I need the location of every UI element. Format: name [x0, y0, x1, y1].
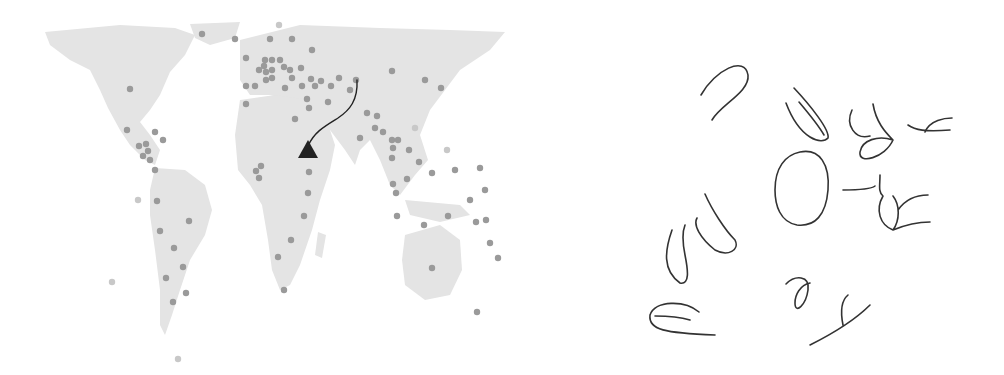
site-dot: [140, 153, 146, 159]
site-dot: [328, 83, 334, 89]
site-dot: [325, 99, 331, 105]
site-dot: [380, 129, 386, 135]
site-dot: [258, 163, 264, 169]
site-dot: [163, 275, 169, 281]
site-dot: [357, 135, 363, 141]
glyph-small-arc: [908, 118, 952, 132]
site-dot: [147, 157, 153, 163]
site-dot: [390, 181, 396, 187]
site-dot: [145, 148, 151, 154]
site-dot: [416, 159, 422, 165]
africa: [235, 95, 335, 290]
site-dot: [292, 116, 298, 122]
site-dot: [305, 190, 311, 196]
site-dot: [364, 110, 370, 116]
site-dot: [445, 213, 451, 219]
site-dot: [308, 76, 314, 82]
glyph-hook: [701, 66, 748, 120]
site-dot: [171, 245, 177, 251]
site-dot: [186, 218, 192, 224]
site-dot: [306, 169, 312, 175]
site-dot: [477, 165, 483, 171]
site-dot: [175, 356, 181, 362]
site-dot: [277, 57, 283, 63]
site-dot: [318, 78, 324, 84]
site-dot: [183, 290, 189, 296]
site-dot: [312, 83, 318, 89]
site-dot: [395, 137, 401, 143]
southeast-asia-islands: [405, 200, 470, 222]
glyph-e: [650, 303, 715, 335]
site-dot: [487, 240, 493, 246]
site-dot: [438, 85, 444, 91]
site-dot: [232, 36, 238, 42]
site-dot: [412, 125, 418, 131]
glyph-double-u: [667, 194, 737, 283]
site-dot: [389, 155, 395, 161]
site-dot: [336, 75, 342, 81]
site-dot: [152, 129, 158, 135]
site-dot: [473, 219, 479, 225]
site-dot: [406, 147, 412, 153]
site-dot: [301, 213, 307, 219]
glyph-y-loop: [850, 104, 893, 159]
site-dot: [170, 299, 176, 305]
site-dot: [256, 67, 262, 73]
site-dot: [256, 175, 262, 181]
glyph-shapes: [650, 66, 952, 345]
site-dot: [267, 36, 273, 42]
site-dot: [243, 83, 249, 89]
glyph-oval: [775, 151, 828, 225]
site-dot: [199, 31, 205, 37]
australia: [402, 225, 462, 300]
site-dot: [253, 168, 259, 174]
site-dot: [180, 264, 186, 270]
greenland: [190, 22, 240, 45]
site-dot: [304, 96, 310, 102]
site-dot: [109, 279, 115, 285]
glyph-s-curve: [786, 278, 810, 308]
site-dot: [482, 187, 488, 193]
site-dot: [135, 197, 141, 203]
site-dot: [429, 265, 435, 271]
site-dot: [483, 217, 489, 223]
site-dot: [262, 57, 268, 63]
site-dot: [136, 143, 142, 149]
site-dot: [261, 63, 267, 69]
site-dot: [474, 309, 480, 315]
site-dot: [160, 137, 166, 143]
south-america: [150, 168, 212, 335]
site-dot: [282, 85, 288, 91]
site-dot: [347, 87, 353, 93]
site-dot: [309, 47, 315, 53]
site-dot: [269, 57, 275, 63]
site-dot: [404, 176, 410, 182]
site-dot: [372, 125, 378, 131]
site-dot: [289, 36, 295, 42]
site-dot: [276, 22, 282, 28]
site-dot: [143, 141, 149, 147]
madagascar: [315, 232, 326, 258]
site-dot: [152, 167, 158, 173]
site-dot: [243, 55, 249, 61]
site-dot: [374, 113, 380, 119]
figure: [0, 0, 1004, 375]
north-america: [45, 25, 195, 165]
site-dot: [275, 254, 281, 260]
site-dot: [289, 75, 295, 81]
site-dot: [353, 77, 359, 83]
site-dot: [444, 147, 450, 153]
glyph-y: [810, 295, 870, 345]
site-dot: [306, 105, 312, 111]
site-dot: [252, 83, 258, 89]
site-dot: [429, 170, 435, 176]
site-dot: [281, 287, 287, 293]
site-dot: [154, 198, 160, 204]
site-dot: [467, 197, 473, 203]
glyph-double-loop: [786, 88, 828, 141]
site-dot: [127, 86, 133, 92]
site-dot: [269, 67, 275, 73]
site-dot: [157, 228, 163, 234]
site-dot: [389, 137, 395, 143]
site-dot: [421, 222, 427, 228]
